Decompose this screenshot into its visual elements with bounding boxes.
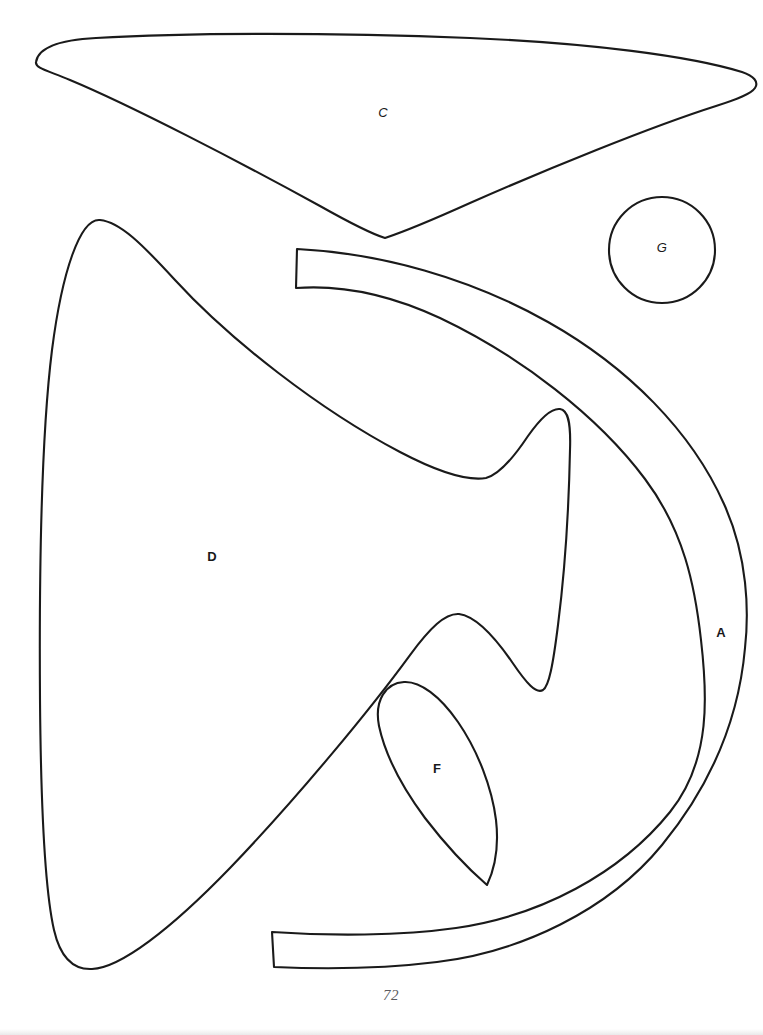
- piece-label-c: C: [378, 105, 388, 120]
- piece-label-g: G: [657, 240, 667, 255]
- piece-label-d: D: [207, 549, 217, 564]
- page-number: 72: [383, 987, 399, 1004]
- pattern-page: C G A D F 72: [0, 0, 763, 1035]
- piece-label-a: A: [716, 625, 726, 640]
- pattern-outlines: [0, 0, 763, 1035]
- page-bottom-edge: [0, 1029, 763, 1035]
- piece-label-f: F: [433, 761, 441, 776]
- piece-f-outline[interactable]: [378, 682, 497, 885]
